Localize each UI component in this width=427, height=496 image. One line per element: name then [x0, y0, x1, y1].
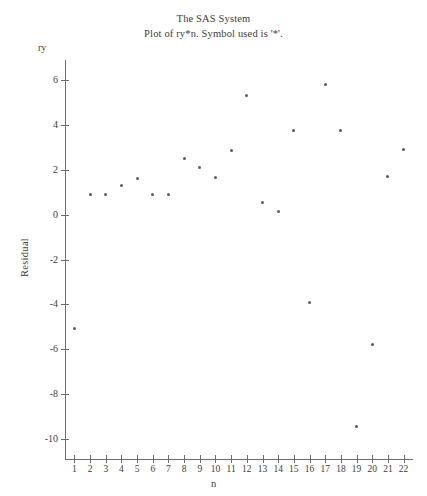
x-tick-mark	[310, 455, 311, 463]
x-tick-mark	[263, 455, 264, 463]
y-tick-mark	[61, 260, 69, 261]
data-point	[104, 193, 107, 196]
data-point	[120, 184, 123, 187]
x-tick-mark	[74, 455, 75, 463]
x-axis-title: n	[0, 478, 427, 489]
data-point	[73, 327, 76, 330]
y-tick-mark	[61, 304, 69, 305]
x-tick-mark	[106, 455, 107, 463]
x-tick-mark	[168, 455, 169, 463]
x-tick-mark	[90, 455, 91, 463]
data-point	[183, 157, 186, 160]
x-tick-label: 22	[394, 464, 414, 474]
x-tick-mark	[184, 455, 185, 463]
x-tick-mark	[247, 455, 248, 463]
x-tick-mark	[137, 455, 138, 463]
data-point	[89, 193, 92, 196]
y-tick-mark	[61, 80, 69, 81]
data-point	[198, 166, 201, 169]
y-tick-label: 0	[34, 209, 58, 220]
x-axis-line	[65, 459, 413, 460]
y-tick-label: 6	[34, 74, 58, 85]
y-tick-label: -6	[34, 343, 58, 354]
data-point	[355, 425, 358, 428]
data-point	[308, 301, 311, 304]
data-point	[230, 149, 233, 152]
data-point	[402, 148, 405, 151]
x-tick-mark	[341, 455, 342, 463]
data-point	[167, 193, 170, 196]
data-point	[292, 129, 295, 132]
y-tick-mark	[61, 170, 69, 171]
sas-plot-page: The SAS System Plot of ry*n. Symbol used…	[0, 0, 427, 496]
y-tick-mark	[61, 394, 69, 395]
data-point	[151, 193, 154, 196]
y-tick-label: 4	[34, 119, 58, 130]
x-tick-mark	[231, 455, 232, 463]
x-tick-mark	[372, 455, 373, 463]
y-tick-label: -4	[34, 298, 58, 309]
y-axis-title: Residual	[19, 218, 30, 298]
data-point	[277, 210, 280, 213]
x-tick-mark	[278, 455, 279, 463]
x-tick-mark	[388, 455, 389, 463]
data-point	[261, 201, 264, 204]
y-variable-label: ry	[38, 42, 46, 53]
data-point	[324, 83, 327, 86]
y-tick-label: 2	[34, 164, 58, 175]
x-tick-mark	[153, 455, 154, 463]
data-point	[386, 175, 389, 178]
x-tick-mark	[200, 455, 201, 463]
data-point	[136, 177, 139, 180]
x-tick-mark	[404, 455, 405, 463]
y-tick-mark	[61, 439, 69, 440]
y-tick-label: -10	[34, 433, 58, 444]
y-tick-mark	[61, 349, 69, 350]
data-point	[371, 343, 374, 346]
data-point	[214, 176, 217, 179]
x-tick-mark	[215, 455, 216, 463]
x-tick-mark	[294, 455, 295, 463]
y-tick-mark	[61, 125, 69, 126]
y-tick-label: -2	[34, 254, 58, 265]
y-tick-label: -8	[34, 388, 58, 399]
scatter-plot-canvas: ry 6420-2-4-6-8-10 123456789101112131415…	[0, 0, 427, 496]
y-tick-mark	[61, 215, 69, 216]
x-tick-mark	[357, 455, 358, 463]
data-point	[245, 94, 248, 97]
x-tick-mark	[121, 455, 122, 463]
x-tick-mark	[325, 455, 326, 463]
data-point	[339, 129, 342, 132]
